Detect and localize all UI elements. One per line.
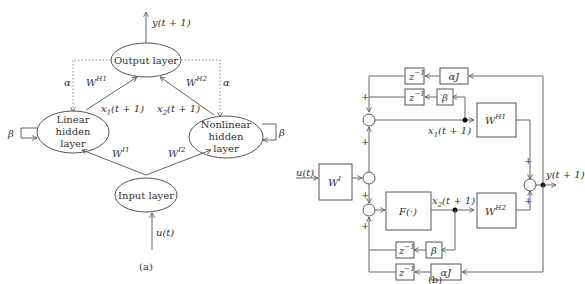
panel-a: y(t + 1) Output layer α α WH1 WH2 x1(t +… xyxy=(7,12,285,272)
beta-self-loop-right xyxy=(262,124,276,140)
caption-a: (a) xyxy=(139,261,153,272)
sum-node-1 xyxy=(363,114,375,126)
x2-label: x2(t + 1) xyxy=(157,103,200,117)
plus-out-bottom: + xyxy=(524,195,532,206)
WH1-to-sum-out xyxy=(516,120,530,179)
u-in-label-b: u(t) xyxy=(296,167,314,178)
beta-left-label: β xyxy=(7,128,14,139)
plus-4: + xyxy=(361,220,369,231)
nonlinear-hidden-label-2: hidden xyxy=(209,131,244,142)
w-h1-label: WH1 xyxy=(86,75,107,88)
zinv1-to-sum1 xyxy=(369,76,405,112)
plus-3: + xyxy=(361,189,369,200)
w-h2-label: WH2 xyxy=(186,75,207,88)
x1-label: x1(t + 1) xyxy=(101,103,144,117)
sum-node-3 xyxy=(363,204,375,216)
plus-out-top: + xyxy=(524,155,532,166)
nonlinear-hidden-label-3: layer xyxy=(213,143,239,154)
alpha-right-label: α xyxy=(223,77,230,88)
x1-label-b: x1(t + 1) xyxy=(428,125,471,139)
input-layer-label: Input layer xyxy=(118,190,174,201)
caption-b: (b) xyxy=(428,274,442,284)
y-out-label-b: y(t + 1) xyxy=(545,169,585,180)
linear-hidden-label-3: layer xyxy=(60,138,86,149)
x2-to-beta-line xyxy=(441,210,455,250)
output-layer-label: Output layer xyxy=(114,55,178,66)
x2-label-b: x2(t + 1) xyxy=(432,195,475,209)
sum-node-out xyxy=(524,179,536,191)
beta-self-loop-left xyxy=(21,128,38,138)
x1-junction xyxy=(463,118,468,123)
beta-bottom-label: β xyxy=(430,245,437,256)
nonlinear-hidden-label-1: Nonlinear xyxy=(201,119,252,130)
plus-1: + xyxy=(361,91,369,102)
w-i2-label: WI2 xyxy=(168,146,186,159)
beta-top-label: β xyxy=(441,92,448,103)
x1-to-beta-line xyxy=(452,97,465,120)
plus-2: + xyxy=(361,136,369,147)
beta-right-label: β xyxy=(278,127,285,138)
alphaJ-top-label: αJ xyxy=(449,71,461,82)
alpha-left-label: α xyxy=(64,77,71,88)
linear-hidden-label-2: hidden xyxy=(56,126,91,137)
figure: y(t + 1) Output layer α α WH1 WH2 x1(t +… xyxy=(0,0,585,284)
alphaJ-bottom-label: αJ xyxy=(441,267,453,278)
w-i1-label: WI1 xyxy=(112,146,130,159)
sum-node-2 xyxy=(363,172,375,184)
linear-hidden-label-1: Linear xyxy=(57,114,90,125)
u-in-label: u(t) xyxy=(156,227,174,238)
y-out-label: y(t + 1) xyxy=(151,17,191,28)
panel-b: αJ z−1 β z−1 + x1(t + 1) WH1 + y(t + 1) … xyxy=(296,68,585,284)
F-label: F(·) xyxy=(398,206,417,217)
